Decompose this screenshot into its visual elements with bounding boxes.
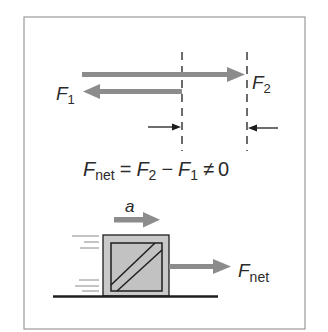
acceleration-arrow-icon: [114, 212, 160, 228]
dimension-arrow-right-icon: [248, 125, 278, 132]
force-2-arrow-icon: [82, 67, 245, 82]
force-2-label: F2: [252, 72, 271, 96]
force-diagram: F1 F2 Fnet=F2−F1≠0 a Fnet: [0, 0, 328, 332]
force-1-arrow-icon: [83, 84, 182, 99]
dimension-arrow-left-icon: [148, 124, 181, 131]
motion-lines-icon: [72, 236, 99, 291]
crate-box-icon: [103, 235, 169, 296]
net-force-equation: Fnet=F2−F1≠0: [83, 158, 229, 183]
net-force-label: Fnet: [238, 260, 269, 285]
net-force-arrow-icon: [169, 259, 231, 274]
acceleration-label: a: [125, 197, 134, 216]
force-1-label: F1: [56, 83, 75, 107]
